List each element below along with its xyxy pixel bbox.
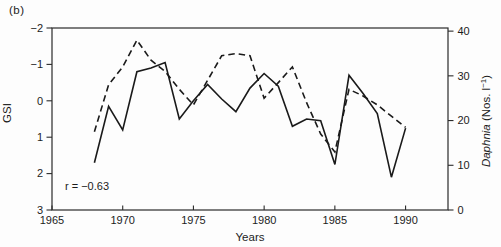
- left-axis-tick-label: 2: [37, 167, 43, 179]
- left-axis-tick-label: 0: [37, 95, 43, 107]
- right-axis-tick-label: 30: [458, 70, 470, 82]
- right-axis-tick-label: 10: [458, 159, 470, 171]
- right-y-axis-label: Daphnia (Nos. l−1): [479, 75, 492, 167]
- x-axis-tick-label: 1975: [181, 214, 205, 226]
- x-axis-tick-label: 1985: [323, 214, 347, 226]
- x-axis-tick-label: 1990: [393, 214, 417, 226]
- correlation-annotation: r = −0.63: [65, 180, 109, 192]
- left-axis-tick-label: −1: [30, 58, 43, 70]
- left-axis-tick-label: 1: [37, 131, 43, 143]
- x-axis-tick-label: 1965: [40, 214, 64, 226]
- daphnia-line: [94, 40, 405, 152]
- x-axis-tick-label: 1980: [252, 214, 276, 226]
- figure-panel-b: (b) −2−101234030201001965197019751980198…: [0, 0, 501, 247]
- right-axis-tick-label: 0: [458, 204, 464, 216]
- right-axis-tick-label: 40: [458, 25, 470, 37]
- left-y-axis-label: GSI: [1, 103, 13, 123]
- x-axis-label: Years: [236, 231, 265, 243]
- gsi-daphnia-line-chart: −2−1012340302010019651970197519801985199…: [0, 0, 501, 247]
- gsi-line: [94, 63, 405, 178]
- x-axis-tick-label: 1970: [110, 214, 134, 226]
- left-axis-tick-label: −2: [30, 22, 43, 34]
- right-axis-tick-label: 20: [458, 114, 470, 126]
